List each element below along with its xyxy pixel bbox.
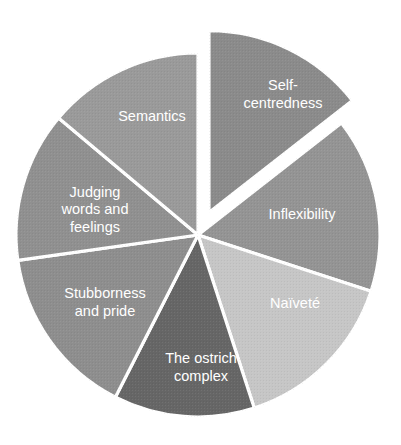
pie-slice-label-2: Naïveté bbox=[270, 295, 320, 311]
pie-slice-label-line: complex bbox=[174, 368, 229, 384]
pie-slice-label-line: centredness bbox=[244, 95, 323, 111]
pie-chart-canvas: Self-centrednessInflexibilityNaïvetéThe … bbox=[0, 0, 401, 445]
pie-slice-label-4: Stubbornessand pride bbox=[64, 285, 145, 319]
pie-chart: Self-centrednessInflexibilityNaïvetéThe … bbox=[0, 0, 401, 445]
pie-slice-label-5: Judgingwords andfeelings bbox=[61, 183, 129, 234]
pie-slice-label-line: Semantics bbox=[118, 108, 186, 124]
pie-slice-label-6: Semantics bbox=[118, 108, 186, 124]
pie-slice-label-line: The ostrich bbox=[165, 350, 237, 366]
pie-slice-label-line: Stubborness bbox=[64, 285, 145, 301]
pie-slice-label-line: feelings bbox=[70, 218, 120, 234]
pie-slice-label-line: Naïveté bbox=[270, 295, 320, 311]
pie-slice-label-line: Inflexibility bbox=[269, 206, 337, 222]
pie-slice-label-line: Judging bbox=[70, 183, 121, 199]
pie-slice-label-1: Inflexibility bbox=[269, 206, 337, 222]
pie-slice-label-line: words and bbox=[61, 201, 129, 217]
pie-slice-label-line: Self- bbox=[268, 77, 298, 93]
pie-slice-label-line: and pride bbox=[75, 303, 135, 319]
pie-slice-label-3: The ostrichcomplex bbox=[165, 350, 237, 384]
